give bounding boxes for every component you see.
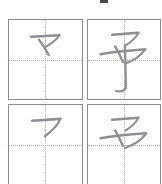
grid-cell-2[interactable] (87, 19, 162, 100)
guide-line-vertical (124, 105, 125, 184)
character-grid (8, 19, 162, 184)
top-cutoff-marker (100, 0, 108, 3)
guide-line-vertical (45, 105, 46, 184)
grid-row (8, 104, 162, 184)
practice-sheet (0, 0, 162, 184)
grid-cell-3[interactable] (8, 104, 83, 184)
guide-line-vertical (45, 20, 46, 99)
guide-line-vertical (124, 20, 125, 99)
grid-row (8, 19, 162, 100)
grid-cell-4[interactable] (87, 104, 162, 184)
grid-cell-1[interactable] (8, 19, 83, 100)
